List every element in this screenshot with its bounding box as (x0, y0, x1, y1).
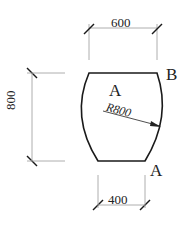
corner-label-b: B (166, 66, 177, 83)
height-label: 800 (4, 91, 17, 111)
corner-label-a: A (150, 162, 162, 179)
left-dimension (27, 73, 65, 161)
top-width-label: 600 (111, 16, 131, 29)
tick-marks (27, 24, 162, 210)
bottom-width-label: 400 (108, 193, 128, 206)
drawing-canvas (0, 0, 191, 228)
center-label-a: A (109, 82, 121, 99)
